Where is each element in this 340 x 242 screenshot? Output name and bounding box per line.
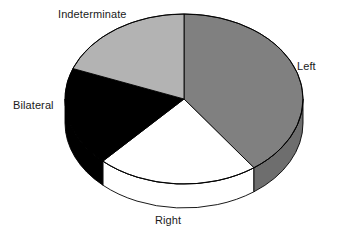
- pie-label-right: Right: [155, 214, 181, 227]
- pie-label-bilateral: Bilateral: [13, 99, 54, 112]
- pie-chart-figure: Indeterminate Left Bilateral Right: [0, 0, 340, 242]
- pie-label-indeterminate: Indeterminate: [58, 8, 127, 21]
- pie-label-left: Left: [297, 60, 316, 73]
- pie-chart-canvas: [0, 0, 340, 242]
